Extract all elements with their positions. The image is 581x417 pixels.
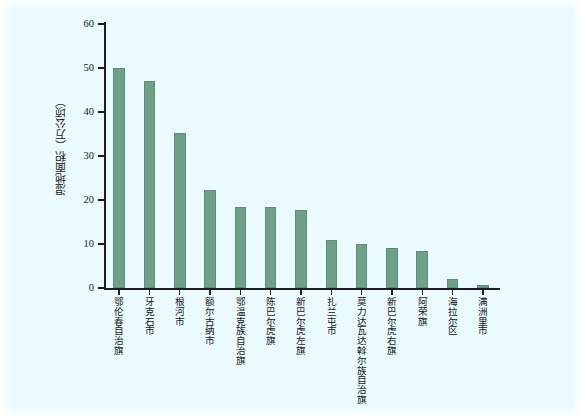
bar [356, 244, 368, 288]
y-tick-label: 30 [64, 151, 94, 162]
y-tick-label: 60 [64, 19, 94, 30]
x-tick [209, 289, 210, 295]
x-tick-label: 新巴尔虎左旗 [296, 297, 306, 356]
x-tick-label: 鄂温克族自治旗 [235, 297, 245, 366]
plot-area [104, 24, 498, 288]
bar [235, 207, 247, 288]
bar [113, 68, 125, 288]
x-tick [482, 289, 483, 295]
x-axis-line [104, 288, 500, 290]
x-tick-label: 满洲里市 [477, 297, 487, 336]
x-tick [422, 289, 423, 295]
y-tick-label: 40 [64, 107, 94, 118]
x-tick-label: 额尔古纳市 [205, 297, 215, 346]
bar [204, 190, 216, 288]
x-tick-label: 陈巴尔虎旗 [265, 297, 275, 346]
chart-figure: 湿地面积（万公顷） 0102030405060 鄂伦春自治旗牙克石市根河市额尔古… [0, 0, 581, 417]
x-tick-label: 鄂伦春自治旗 [114, 297, 124, 356]
x-tick [118, 289, 119, 295]
y-tick-label: 50 [64, 63, 94, 74]
x-tick [149, 289, 150, 295]
bar [416, 251, 428, 288]
x-tick-label: 扎兰屯市 [326, 297, 336, 336]
bar [447, 279, 459, 288]
bar [265, 207, 277, 288]
x-tick-label: 海拉尔区 [447, 297, 457, 336]
bar [386, 248, 398, 288]
x-tick-label: 牙克石市 [144, 297, 154, 336]
y-tick-label: 10 [64, 239, 94, 250]
x-tick [179, 289, 180, 295]
x-tick [361, 289, 362, 295]
x-tick-label: 根河市 [174, 297, 184, 326]
x-tick [331, 289, 332, 295]
bar [144, 81, 156, 288]
y-tick-label: 0 [64, 283, 94, 294]
x-tick [391, 289, 392, 295]
bar [295, 210, 307, 288]
x-tick-label: 新巴尔虎右旗 [386, 297, 396, 356]
x-tick [452, 289, 453, 295]
bar [174, 133, 186, 288]
x-tick [270, 289, 271, 295]
bar [326, 240, 338, 288]
bar [477, 285, 489, 288]
x-tick-label: 阿荣旗 [417, 297, 427, 326]
x-tick-label: 莫力达瓦达斡尔族自治旗 [356, 297, 366, 405]
x-tick [300, 289, 301, 295]
x-tick [240, 289, 241, 295]
y-tick-label: 20 [64, 195, 94, 206]
